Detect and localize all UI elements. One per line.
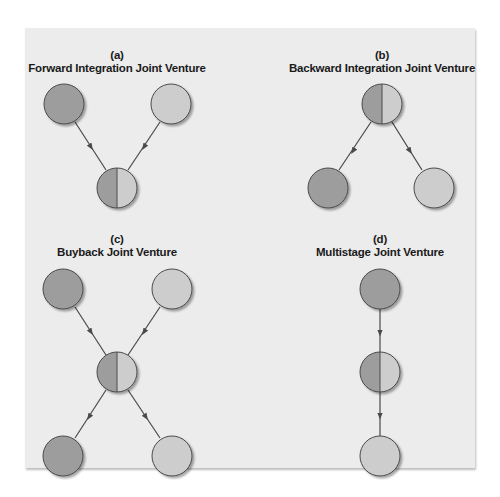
joint-venture-node: [97, 352, 137, 392]
light-partner-node: [151, 84, 191, 124]
dark-partner-node: [360, 269, 400, 309]
arrow-line: [392, 122, 422, 170]
dark-partner-node: [43, 436, 83, 476]
arrow-line: [339, 122, 371, 170]
panel-c-diagram: [43, 269, 192, 476]
joint-venture-node: [97, 168, 137, 208]
dark-partner-node: [44, 84, 84, 124]
arrow-line: [128, 307, 160, 355]
light-partner-node: [152, 269, 192, 309]
panel-a-diagram: [44, 84, 191, 208]
dark-partner-node: [308, 168, 348, 208]
panel-d-diagram: [360, 269, 400, 476]
diagram-canvas: [0, 0, 500, 497]
light-partner-node: [414, 168, 454, 208]
arrow-line: [128, 390, 160, 438]
joint-venture-node: [360, 352, 400, 392]
panel-b-diagram: [308, 84, 454, 208]
arrow-line: [128, 122, 160, 170]
dark-partner-node: [43, 269, 83, 309]
joint-venture-node: [362, 84, 402, 124]
arrow-line: [75, 122, 106, 170]
arrow-line: [75, 307, 106, 355]
light-partner-node: [152, 436, 192, 476]
arrow-line: [75, 390, 106, 438]
light-partner-node: [360, 436, 400, 476]
